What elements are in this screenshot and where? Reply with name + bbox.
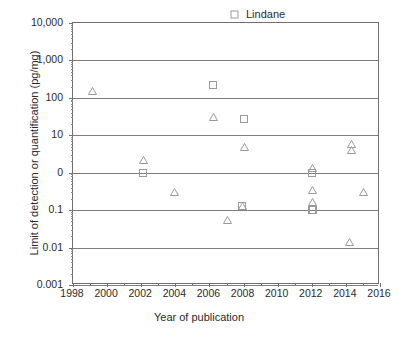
y-tick-minor — [71, 199, 73, 200]
data-point-lindane — [238, 202, 246, 210]
gridline — [73, 98, 378, 99]
data-point-ddt — [139, 156, 147, 164]
y-tick-minor — [71, 117, 73, 118]
data-point-ddt — [308, 164, 316, 172]
data-point-ddt — [308, 186, 316, 194]
gridline — [73, 173, 378, 174]
data-point-ddt — [345, 238, 353, 246]
y-tick-minor — [71, 192, 73, 193]
y-tick-minor — [71, 139, 73, 140]
data-point-ddt — [347, 146, 355, 154]
x-axis-title: Year of publication — [0, 311, 398, 323]
y-tick-minor — [71, 66, 73, 67]
y-tick-minor — [71, 236, 73, 237]
y-tick-minor — [71, 100, 73, 101]
y-tick-minor — [71, 124, 73, 125]
y-tick-minor — [71, 150, 73, 151]
legend-label-lindane: Lindane — [246, 8, 285, 20]
data-point-ddt — [223, 216, 231, 224]
x-tick-minor — [90, 283, 91, 285]
y-tick-label: 0.01 — [0, 242, 63, 253]
y-tick-minor — [71, 27, 73, 28]
y-tick-minor — [71, 31, 73, 32]
y-tick-minor — [71, 253, 73, 254]
y-tick-minor — [71, 38, 73, 39]
y-tick-minor — [71, 69, 73, 70]
open-square-icon — [228, 8, 240, 20]
y-tick-label: 1,000 — [0, 54, 63, 65]
data-point-ddt — [240, 143, 248, 151]
y-tick-minor — [71, 72, 73, 73]
y-tick-minor — [71, 262, 73, 263]
y-tick-minor — [71, 230, 73, 231]
gridline — [73, 248, 378, 249]
y-tick-minor — [71, 137, 73, 138]
x-tick-minor — [192, 283, 193, 285]
data-point-lindane — [209, 81, 217, 89]
y-tick-minor — [71, 188, 73, 189]
y-tick-minor — [71, 174, 73, 175]
y-tick-minor — [71, 34, 73, 35]
y-tick-minor — [71, 181, 73, 182]
legend-item-lindane: Lindane — [228, 6, 290, 22]
y-tick-minor — [71, 176, 73, 177]
y-tick-minor — [71, 256, 73, 257]
y-tick-minor — [71, 113, 73, 114]
y-tick-minor — [71, 184, 73, 185]
y-tick-label: 10 — [0, 129, 63, 140]
x-tick-minor — [363, 283, 364, 285]
gridline — [73, 210, 378, 211]
y-tick-minor — [71, 62, 73, 63]
gridline — [73, 285, 378, 286]
y-tick-minor — [71, 221, 73, 222]
y-tick-minor — [71, 144, 73, 145]
y-tick-label: 0 — [0, 167, 63, 178]
y-tick-label: 100 — [0, 92, 63, 103]
data-point-lindane — [240, 115, 248, 123]
y-tick-minor — [71, 218, 73, 219]
y-tick-label: 10,000 — [0, 17, 63, 28]
y-tick-minor — [71, 80, 73, 81]
x-tick-minor — [295, 283, 296, 285]
y-tick-minor — [71, 251, 73, 252]
data-point-ddt — [308, 198, 316, 206]
data-point-ddt — [170, 188, 178, 196]
gridline — [73, 135, 378, 136]
y-tick-minor — [71, 259, 73, 260]
y-tick-minor — [71, 64, 73, 65]
y-tick-minor — [71, 249, 73, 250]
y-tick-minor — [71, 49, 73, 50]
y-tick-minor — [71, 147, 73, 148]
y-tick-minor — [71, 267, 73, 268]
y-tick-minor — [71, 104, 73, 105]
x-tick-minor — [329, 283, 330, 285]
y-tick-minor — [71, 161, 73, 162]
y-tick-minor — [71, 109, 73, 110]
x-tick-minor — [261, 283, 262, 285]
y-tick-minor — [71, 216, 73, 217]
data-point-ddt — [88, 87, 96, 95]
y-tick-minor — [71, 141, 73, 142]
data-point-ddt — [359, 188, 367, 196]
data-point-ddt — [238, 202, 246, 210]
x-tick-minor — [227, 283, 228, 285]
y-tick-minor — [71, 155, 73, 156]
y-tick-minor — [71, 179, 73, 180]
y-tick-minor — [71, 29, 73, 30]
data-point-ddt — [209, 113, 217, 121]
y-tick-minor — [71, 274, 73, 275]
y-tick-minor — [71, 87, 73, 88]
x-tick-minor — [124, 283, 125, 285]
data-point-ddt — [347, 140, 355, 148]
y-tick-minor — [71, 106, 73, 107]
y-tick-minor — [71, 212, 73, 213]
chart-container: Lindane p,p′-DDT Limit of detection or q… — [0, 0, 398, 340]
y-tick-minor — [71, 25, 73, 26]
y-tick-label: 0.1 — [0, 204, 63, 215]
y-tick-minor — [71, 75, 73, 76]
x-tick-label: 2016 — [359, 288, 398, 299]
y-tick-minor — [71, 43, 73, 44]
y-tick-minor — [71, 225, 73, 226]
gridline — [73, 60, 378, 61]
y-tick-minor — [71, 101, 73, 102]
